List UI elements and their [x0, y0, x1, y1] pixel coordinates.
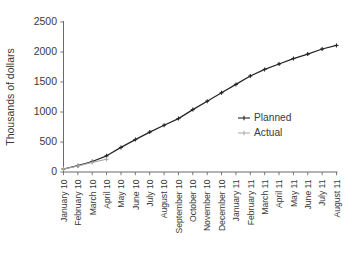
data-point-actual: [76, 164, 80, 168]
x-tick-label: March 10: [88, 179, 98, 215]
data-point-planned: [277, 62, 281, 66]
data-point-actual: [105, 157, 109, 161]
y-axis-title: Thousands of dollars: [4, 48, 16, 145]
x-tick-label: July 10: [145, 179, 155, 206]
x-tick-label: October 10: [188, 179, 198, 222]
x-tick-label: August 11: [332, 179, 342, 217]
x-tick-label: June 11: [303, 179, 313, 209]
x-tick-label: January 10: [59, 179, 69, 222]
x-tick-label: June 10: [131, 179, 141, 210]
y-tick-label: 1500: [34, 75, 58, 87]
x-tick-label: November 10: [202, 179, 212, 231]
x-tick-label: September 10: [174, 179, 184, 233]
data-point-planned: [306, 52, 310, 56]
y-tick-group: 05001000150020002500: [34, 15, 64, 177]
data-point-planned: [291, 57, 295, 61]
data-point-planned: [320, 47, 324, 51]
series-group: [61, 43, 338, 171]
x-tick-label: February 11: [246, 179, 256, 225]
data-point-planned: [162, 123, 166, 127]
y-tick-label: 0: [51, 165, 57, 177]
x-tick-label: May 10: [116, 179, 126, 207]
legend-marker-planned: [238, 116, 250, 120]
data-point-planned: [335, 43, 339, 47]
x-axis-group: January 10February 10March 10April 10May…: [59, 172, 342, 233]
x-tick-label: April 10: [102, 179, 112, 208]
legend-label-planned: Planned: [254, 112, 292, 123]
y-tick-label: 500: [39, 135, 57, 147]
x-tick-label: May 11: [289, 179, 299, 207]
x-tick-label: February 10: [73, 179, 83, 226]
x-tick-label: December 10: [217, 179, 227, 231]
chart-canvas: 05001000150020002500 January 10February …: [0, 0, 354, 254]
chart-legend: PlannedActual: [238, 112, 292, 138]
series-line-actual: [64, 159, 107, 169]
x-tick-label: March 11: [260, 179, 270, 214]
x-tick-label: July 11: [317, 179, 327, 206]
y-tick-label: 2500: [34, 15, 58, 27]
y-axis-group: 05001000150020002500: [34, 15, 64, 177]
data-point-planned: [263, 67, 267, 71]
x-tick-label: August 10: [159, 179, 169, 218]
x-tick-label: January 11: [231, 179, 241, 221]
legend-label-actual: Actual: [254, 127, 282, 138]
legend-marker-actual: [238, 131, 250, 135]
line-chart: 05001000150020002500 January 10February …: [0, 0, 354, 254]
y-tick-label: 2000: [34, 45, 58, 57]
x-tick-group: January 10February 10March 10April 10May…: [59, 172, 342, 233]
y-tick-label: 1000: [34, 105, 58, 117]
series-line-planned: [64, 45, 337, 169]
x-tick-label: April 11: [274, 179, 284, 208]
data-point-actual: [61, 167, 65, 171]
